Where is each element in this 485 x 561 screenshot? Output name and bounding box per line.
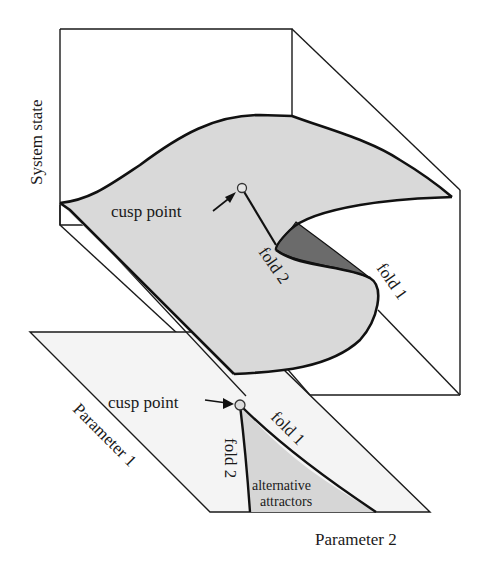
- cusp-point-marker: [238, 184, 247, 193]
- surface-cusp-label: cusp point: [111, 202, 182, 221]
- plane-cusp-label: cusp point: [108, 393, 179, 412]
- cusp-point-marker: [235, 400, 245, 410]
- axis-label-parameter-2: Parameter 2: [315, 530, 397, 549]
- region-label-line1: alternative: [252, 478, 311, 493]
- cusp-catastrophe-diagram: System state cusp point fold 2 fold 1 cu…: [0, 0, 485, 561]
- plane-fold2-label: fold 2: [221, 438, 240, 478]
- region-label-line2: attractors: [260, 494, 312, 509]
- axis-label-system-state: System state: [27, 100, 46, 185]
